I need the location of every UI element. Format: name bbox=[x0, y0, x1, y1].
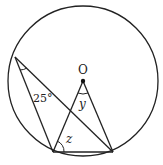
circle-geometry-diagram: O 25° y z bbox=[0, 0, 163, 165]
radius-o-c bbox=[83, 81, 113, 152]
angle-label-25: 25° bbox=[33, 92, 53, 105]
angle-label-y: y bbox=[78, 97, 86, 111]
angle-arc-z bbox=[57, 141, 64, 152]
angle-arc-y bbox=[78, 93, 88, 94]
angle-arc-a bbox=[20, 68, 27, 70]
center-point bbox=[81, 79, 85, 83]
angle-label-z: z bbox=[65, 132, 73, 146]
center-label: O bbox=[78, 63, 88, 77]
chord-a-c bbox=[15, 57, 113, 152]
